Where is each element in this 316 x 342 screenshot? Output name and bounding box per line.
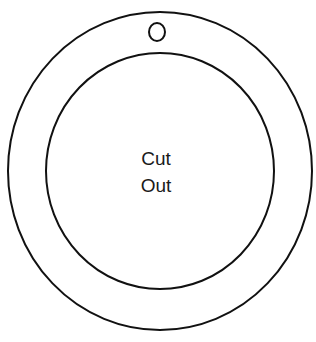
hanging-hole (149, 23, 165, 41)
out-label: Out (110, 176, 202, 195)
inner-cut-circle (46, 53, 274, 289)
outer-ring (8, 12, 312, 330)
cut-label: Cut (110, 149, 202, 168)
ornament-diagram (0, 0, 316, 342)
